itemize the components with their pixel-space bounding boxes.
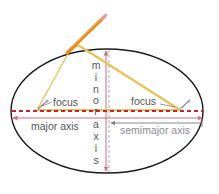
minor-letter: i <box>95 142 97 154</box>
pin-left-head <box>45 99 48 102</box>
pin-right-icon <box>180 101 189 109</box>
semimajor-axis-label: semimajor axis <box>120 124 190 136</box>
minor-letter: m <box>92 59 101 71</box>
minor-letter: a <box>93 118 99 130</box>
minor-axis-label: m i n o r a x i s <box>92 59 101 166</box>
focus-right-label: focus <box>131 95 156 107</box>
pencil-eraser <box>102 15 106 19</box>
minor-letter: r <box>94 105 98 117</box>
ellipse-diagram: focus focus major axis semimajor axis m … <box>0 0 219 194</box>
minor-letter: s <box>93 154 98 166</box>
major-axis-label: major axis <box>31 120 79 132</box>
pencil-icon <box>67 17 104 53</box>
pin-right-head <box>187 99 190 102</box>
minor-letter: x <box>93 130 99 142</box>
minor-letter: i <box>95 71 97 83</box>
pencil-highlight <box>72 17 103 47</box>
focus-left-label: focus <box>53 96 78 108</box>
